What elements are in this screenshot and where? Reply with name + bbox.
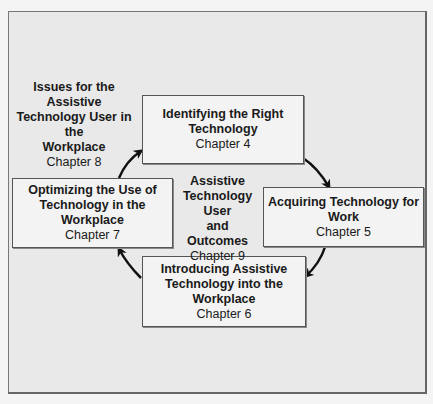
arrow-ch4-to-ch5 [303, 158, 329, 187]
box-optimizing-technology: Optimizing the Use of Technology in the … [12, 178, 173, 248]
outside-note-title: Issues for the Assistive Technology User… [8, 80, 140, 155]
box-introducing-technology: Introducing Assistive Technology into th… [142, 256, 306, 327]
outside-note-chapter: Chapter 8 [8, 155, 140, 170]
box-acquiring-technology: Acquiring Technology for Work Chapter 5 [263, 187, 424, 247]
arrow-ch5-to-ch6 [306, 247, 325, 276]
arrow-ch6-to-ch7 [119, 249, 141, 278]
center-label: Assistive Technology User and Outcomes C… [172, 174, 263, 264]
outside-note: Issues for the Assistive Technology User… [8, 80, 140, 170]
box-identifying-technology: Identifying the Right Technology Chapter… [142, 95, 304, 164]
